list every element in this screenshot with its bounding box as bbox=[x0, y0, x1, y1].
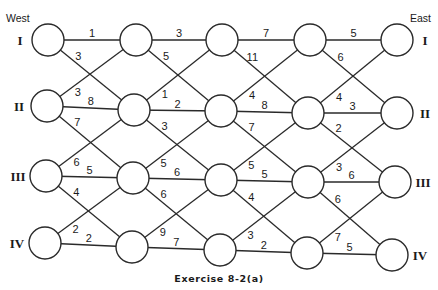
node-row1-col3 bbox=[206, 24, 238, 56]
node-row1-col5 bbox=[381, 24, 413, 56]
edge-weight-label: 8 bbox=[88, 95, 94, 107]
node-row3-col5 bbox=[379, 166, 411, 198]
edge-weight-label: 4 bbox=[249, 89, 255, 101]
edge-weight-label: 4 bbox=[248, 191, 254, 203]
node-row4-col2 bbox=[116, 231, 148, 263]
edge-weight-label: 6 bbox=[348, 169, 354, 181]
edge-weight-label: 9 bbox=[160, 226, 166, 238]
node-row1-col4 bbox=[294, 24, 326, 56]
node-row3-col2 bbox=[117, 162, 149, 194]
row-label-east: III bbox=[415, 175, 430, 190]
edge-weight-label: 3 bbox=[336, 161, 342, 173]
edge-weight-label: 5 bbox=[87, 164, 93, 176]
row-label-west: I bbox=[17, 33, 22, 48]
edge-weight-label: 2 bbox=[86, 232, 92, 244]
edge-weight-label: 2 bbox=[335, 122, 341, 134]
edge-weight-label: 3 bbox=[176, 27, 182, 39]
node-row3-col4 bbox=[292, 166, 324, 198]
edge-weight-label: 3 bbox=[161, 120, 167, 132]
node-row2-col1 bbox=[31, 90, 63, 122]
row-label-west: IV bbox=[10, 236, 25, 251]
edge-weight-label: 2 bbox=[261, 239, 267, 251]
node-row2-col2 bbox=[118, 94, 150, 126]
edge-weight-label: 6 bbox=[161, 188, 167, 200]
node-row4-col4 bbox=[291, 237, 323, 269]
row-labels-west: IIIIIIIV bbox=[10, 33, 26, 251]
node-row3-col1 bbox=[30, 160, 62, 192]
node-row2-col3 bbox=[205, 95, 237, 127]
node-row3-col3 bbox=[205, 164, 237, 196]
edge-weight-label: 5 bbox=[248, 159, 254, 171]
edge-weight-label: 3 bbox=[248, 229, 254, 241]
edge-weight-label: 4 bbox=[336, 91, 342, 103]
edge-weight-label: 1 bbox=[89, 27, 95, 39]
node-row1-col1 bbox=[32, 24, 64, 56]
edge-weight-label: 7 bbox=[248, 121, 254, 133]
row-labels-east: IIIIIIIV bbox=[413, 33, 431, 263]
west-label: West bbox=[6, 12, 30, 24]
edge-weight-label: 2 bbox=[72, 223, 78, 235]
node-row4-col5 bbox=[376, 239, 408, 271]
east-label: East bbox=[410, 12, 431, 24]
edge-weight-label: 8 bbox=[262, 99, 268, 111]
edge-weight-label: 3 bbox=[75, 86, 81, 98]
edge-weight-label: 5 bbox=[163, 50, 169, 62]
network-diagram: 1375828356562725351167372464631446553293… bbox=[0, 0, 438, 290]
edge-weight-label: 11 bbox=[247, 51, 258, 63]
node-row4-col3 bbox=[204, 234, 236, 266]
edge-weight-label: 5 bbox=[347, 241, 353, 253]
edge-weight-label: 6 bbox=[74, 156, 80, 168]
figure-caption: Exercise 8-2(a) bbox=[174, 273, 263, 284]
edge-weight-label: 2 bbox=[175, 98, 181, 110]
edge-weight-label: 3 bbox=[349, 100, 355, 112]
edge-weight-label: 7 bbox=[263, 27, 269, 39]
node-row1-col2 bbox=[120, 24, 152, 56]
row-label-west: II bbox=[14, 99, 24, 114]
edge-weight-label: 5 bbox=[161, 157, 167, 169]
node-row4-col1 bbox=[29, 227, 61, 259]
node-row2-col5 bbox=[381, 97, 413, 129]
row-label-east: IV bbox=[413, 248, 428, 263]
node-row2-col4 bbox=[292, 97, 324, 129]
row-label-east: II bbox=[420, 106, 430, 121]
edge-weight-label: 6 bbox=[338, 51, 344, 63]
edges-layer bbox=[45, 40, 397, 255]
edge-weight-label: 5 bbox=[262, 168, 268, 180]
edge-weight-label: 7 bbox=[74, 116, 80, 128]
edge-weight-label: 7 bbox=[335, 231, 341, 243]
row-label-east: I bbox=[422, 33, 427, 48]
edge-weight-label: 4 bbox=[73, 186, 79, 198]
edge-weight-label: 6 bbox=[335, 193, 341, 205]
edge-weight-label: 1 bbox=[162, 88, 168, 100]
edge-weight-label: 6 bbox=[174, 166, 180, 178]
edge-weight-label: 3 bbox=[75, 50, 81, 62]
edge-weight-labels: 1375828356562725351167372464631446553293… bbox=[72, 27, 356, 253]
edge-weight-label: 7 bbox=[173, 236, 179, 248]
edge-weight-label: 5 bbox=[350, 27, 356, 39]
row-label-west: III bbox=[10, 169, 25, 184]
